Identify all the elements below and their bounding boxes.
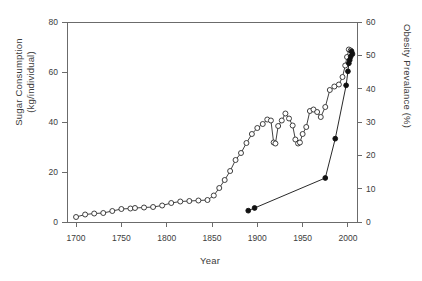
svg-text:20: 20: [366, 150, 376, 160]
series-layer: [74, 47, 355, 220]
svg-text:1850: 1850: [203, 233, 222, 243]
svg-text:30: 30: [366, 117, 376, 127]
svg-text:40: 40: [49, 117, 59, 127]
svg-text:1900: 1900: [248, 233, 267, 243]
svg-text:2000: 2000: [338, 233, 357, 243]
plot-area: 0204060800102030405060170017501800185019…: [0, 0, 422, 281]
axis-layer: 0204060800102030405060170017501800185019…: [49, 17, 376, 243]
svg-text:60: 60: [366, 17, 376, 27]
svg-text:50: 50: [366, 50, 376, 60]
chart-figure: Sugar Consumption (kg/individual) Obesit…: [0, 0, 422, 281]
svg-text:1800: 1800: [157, 233, 176, 243]
svg-text:1750: 1750: [112, 233, 131, 243]
svg-text:1950: 1950: [293, 233, 312, 243]
svg-text:40: 40: [366, 84, 376, 94]
svg-text:20: 20: [49, 167, 59, 177]
svg-text:60: 60: [49, 67, 59, 77]
svg-text:80: 80: [49, 17, 59, 27]
svg-text:0: 0: [366, 217, 371, 227]
svg-text:1700: 1700: [67, 233, 86, 243]
svg-text:10: 10: [366, 184, 376, 194]
svg-text:0: 0: [53, 217, 58, 227]
